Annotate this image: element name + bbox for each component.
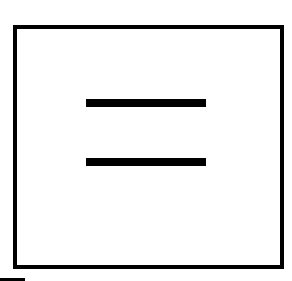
equals-bar-bottom <box>86 158 206 166</box>
square-frame <box>13 25 284 269</box>
equals-bar-top <box>86 99 206 107</box>
